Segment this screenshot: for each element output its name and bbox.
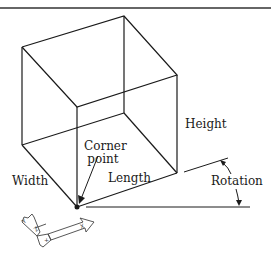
corner-point-dot bbox=[75, 205, 80, 210]
box-edge-bottom-back-right bbox=[124, 113, 177, 173]
length-label: Length bbox=[108, 172, 151, 185]
diagram-drawing: Y Z X + bbox=[0, 0, 271, 263]
svg-text:+: + bbox=[44, 236, 49, 243]
height-label: Height bbox=[185, 118, 227, 131]
corner-point-label: Corner point bbox=[84, 140, 122, 166]
ucs-icon bbox=[22, 214, 94, 247]
svg-text:Y: Y bbox=[19, 217, 27, 226]
svg-text:X: X bbox=[79, 222, 85, 230]
box-top-face bbox=[22, 16, 177, 107]
ucs-x-arrow bbox=[48, 218, 94, 240]
width-label: Width bbox=[12, 175, 48, 188]
corner-point-label-line2: point bbox=[84, 153, 122, 166]
rotation-label: Rotation bbox=[211, 175, 263, 188]
rotation-angle-line bbox=[184, 158, 228, 172]
box-diagram: Y Z X + Height Corner point Width Length… bbox=[0, 0, 271, 263]
ucs-y-arrow bbox=[22, 214, 40, 236]
svg-text:Z: Z bbox=[32, 225, 40, 233]
